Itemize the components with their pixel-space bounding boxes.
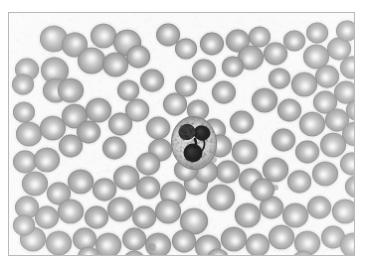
figure-caption-partial [8,258,355,266]
micrograph-frame [8,12,355,256]
figure-root [0,0,367,266]
blood-smear-micrograph-canvas [9,13,354,255]
